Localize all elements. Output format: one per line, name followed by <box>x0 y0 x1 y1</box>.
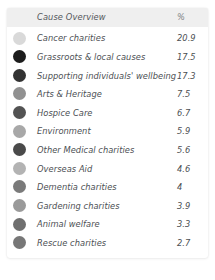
table-row[interactable]: Overseas Aid4.6 <box>7 159 208 178</box>
table-row[interactable]: Hospice Care6.7 <box>7 103 208 122</box>
table-row[interactable]: Arts & Heritage7.5 <box>7 85 208 104</box>
cause-label: Cancer charities <box>37 33 105 43</box>
column-header-cause: Cause Overview <box>37 12 106 22</box>
cause-overview-card: Cause Overview % Cancer charities20.9Gra… <box>7 8 208 258</box>
table-row[interactable]: Dementia charities4 <box>7 178 208 197</box>
table-row[interactable]: Rescue charities2.7 <box>7 234 208 253</box>
table-row[interactable]: Other Medical charities5.6 <box>7 141 208 160</box>
cause-percent-value: 7.5 <box>177 89 190 99</box>
cause-label: Supporting individuals' wellbeing <box>37 71 176 81</box>
table-row[interactable]: Supporting individuals' wellbeing17.3 <box>7 66 208 85</box>
cause-label: Grassroots & local causes <box>37 52 145 62</box>
table-header-row: Cause Overview % <box>7 8 208 27</box>
cause-label: Dementia charities <box>37 182 117 192</box>
color-swatch-icon <box>13 50 26 63</box>
cause-label: Other Medical charities <box>37 145 134 155</box>
cause-label: Environment <box>37 126 91 136</box>
color-swatch-icon <box>13 199 26 212</box>
color-swatch-icon <box>13 32 26 45</box>
column-header-percent: % <box>177 12 185 22</box>
table-row[interactable]: Animal welfare3.3 <box>7 215 208 234</box>
table-row[interactable]: Environment5.9 <box>7 122 208 141</box>
cause-percent-value: 6.7 <box>177 108 190 118</box>
cause-percent-value: 17.3 <box>177 71 196 81</box>
color-swatch-icon <box>13 87 26 100</box>
cause-percent-value: 4 <box>177 182 182 192</box>
color-swatch-icon <box>13 162 26 175</box>
table-row[interactable]: Cancer charities20.9 <box>7 29 208 48</box>
color-swatch-icon <box>13 218 26 231</box>
cause-percent-value: 17.5 <box>177 52 196 62</box>
table-body: Cancer charities20.9Grassroots & local c… <box>7 27 208 252</box>
cause-percent-value: 3.3 <box>177 219 190 229</box>
cause-label: Rescue charities <box>37 238 106 248</box>
cause-label: Arts & Heritage <box>37 89 102 99</box>
cause-label: Hospice Care <box>37 108 93 118</box>
cause-label: Animal welfare <box>37 219 100 229</box>
cause-percent-value: 5.9 <box>177 126 190 136</box>
color-swatch-icon <box>13 180 26 193</box>
cause-percent-value: 4.6 <box>177 164 190 174</box>
color-swatch-icon <box>13 143 26 156</box>
cause-percent-value: 2.7 <box>177 238 190 248</box>
cause-percent-value: 5.6 <box>177 145 190 155</box>
cause-label: Gardening charities <box>37 201 120 211</box>
color-swatch-icon <box>13 125 26 138</box>
table-row[interactable]: Grassroots & local causes17.5 <box>7 48 208 67</box>
color-swatch-icon <box>13 69 26 82</box>
cause-label: Overseas Aid <box>37 164 92 174</box>
color-swatch-icon <box>13 106 26 119</box>
cause-percent-value: 3.9 <box>177 201 190 211</box>
table-row[interactable]: Gardening charities3.9 <box>7 196 208 215</box>
color-swatch-icon <box>13 236 26 249</box>
cause-percent-value: 20.9 <box>177 33 196 43</box>
